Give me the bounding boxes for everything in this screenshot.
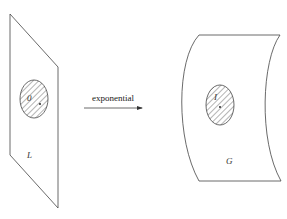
exponential-map-diagram: 0 L exponential I G bbox=[0, 0, 287, 219]
arrow-label: exponential bbox=[92, 93, 134, 103]
identity-point bbox=[219, 106, 221, 108]
left-neighborhood bbox=[20, 80, 48, 118]
arrow-head-icon bbox=[137, 106, 143, 110]
left-origin-point bbox=[39, 103, 41, 105]
right-surface-label: G bbox=[226, 156, 233, 166]
right-neighborhood bbox=[206, 85, 234, 125]
left-point-label: 0 bbox=[27, 93, 32, 103]
left-plane-label: L bbox=[26, 150, 32, 160]
